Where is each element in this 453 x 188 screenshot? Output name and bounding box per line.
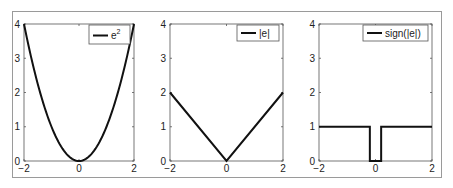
y-tick-label: 1	[309, 121, 315, 132]
x-tick-label: 0	[224, 163, 230, 174]
x-tick-label: −2	[313, 163, 325, 174]
y-tick-label: 3	[160, 53, 166, 64]
x-tick-label: 2	[429, 163, 435, 174]
legend: e2	[89, 25, 130, 44]
y-tick-label: 4	[14, 19, 20, 30]
y-tick-label: 3	[309, 53, 315, 64]
y-tick-label: 3	[14, 53, 20, 64]
axes-box	[170, 24, 283, 161]
x-tick-label: 2	[280, 163, 286, 174]
y-tick-label: 2	[14, 87, 20, 98]
y-tick-label: 1	[160, 121, 166, 132]
x-tick-label: −2	[164, 163, 176, 174]
y-tick-label: 4	[309, 19, 315, 30]
legend-label: |e|	[259, 28, 270, 39]
axes-box	[319, 24, 432, 161]
figure: 01234−202e201234−202|e|01234−202sign(|e|…	[0, 0, 453, 188]
y-tick-label: 1	[14, 121, 20, 132]
y-tick-label: 2	[309, 87, 315, 98]
x-tick-label: 2	[131, 163, 137, 174]
subplot-3: 01234−202sign(|e|)	[309, 19, 435, 175]
legend-label: sign(|e|)	[385, 28, 421, 39]
legend: sign(|e|)	[363, 25, 428, 41]
y-tick-label: 4	[160, 19, 166, 30]
legend: |e|	[237, 25, 279, 41]
x-tick-label: 0	[373, 163, 379, 174]
subplot-2: 01234−202|e|	[160, 19, 286, 175]
y-tick-label: 2	[160, 87, 166, 98]
subplot-1: 01234−202e2	[14, 19, 137, 175]
x-tick-label: 0	[76, 163, 82, 174]
x-tick-label: −2	[18, 163, 30, 174]
